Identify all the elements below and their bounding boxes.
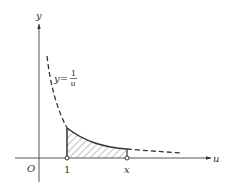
point-x [125, 156, 129, 160]
svg-text:u: u [71, 79, 76, 88]
svg-text:1: 1 [71, 69, 76, 78]
curve-dashed-left [47, 56, 67, 128]
tick-label-x: x [124, 164, 130, 175]
point-1 [65, 156, 69, 160]
svg-text:y=: y= [53, 73, 68, 84]
tick-label-1: 1 [64, 164, 70, 175]
curve-equation: y= 1 u [53, 69, 77, 88]
u-axis-label: u [213, 153, 219, 164]
y-axis-label: y [35, 10, 42, 21]
curve-dashed-right [127, 149, 182, 153]
origin-label: O [27, 163, 35, 174]
area-under-hyperbola-diagram: y u O 1 x y= 1 u [0, 0, 228, 191]
